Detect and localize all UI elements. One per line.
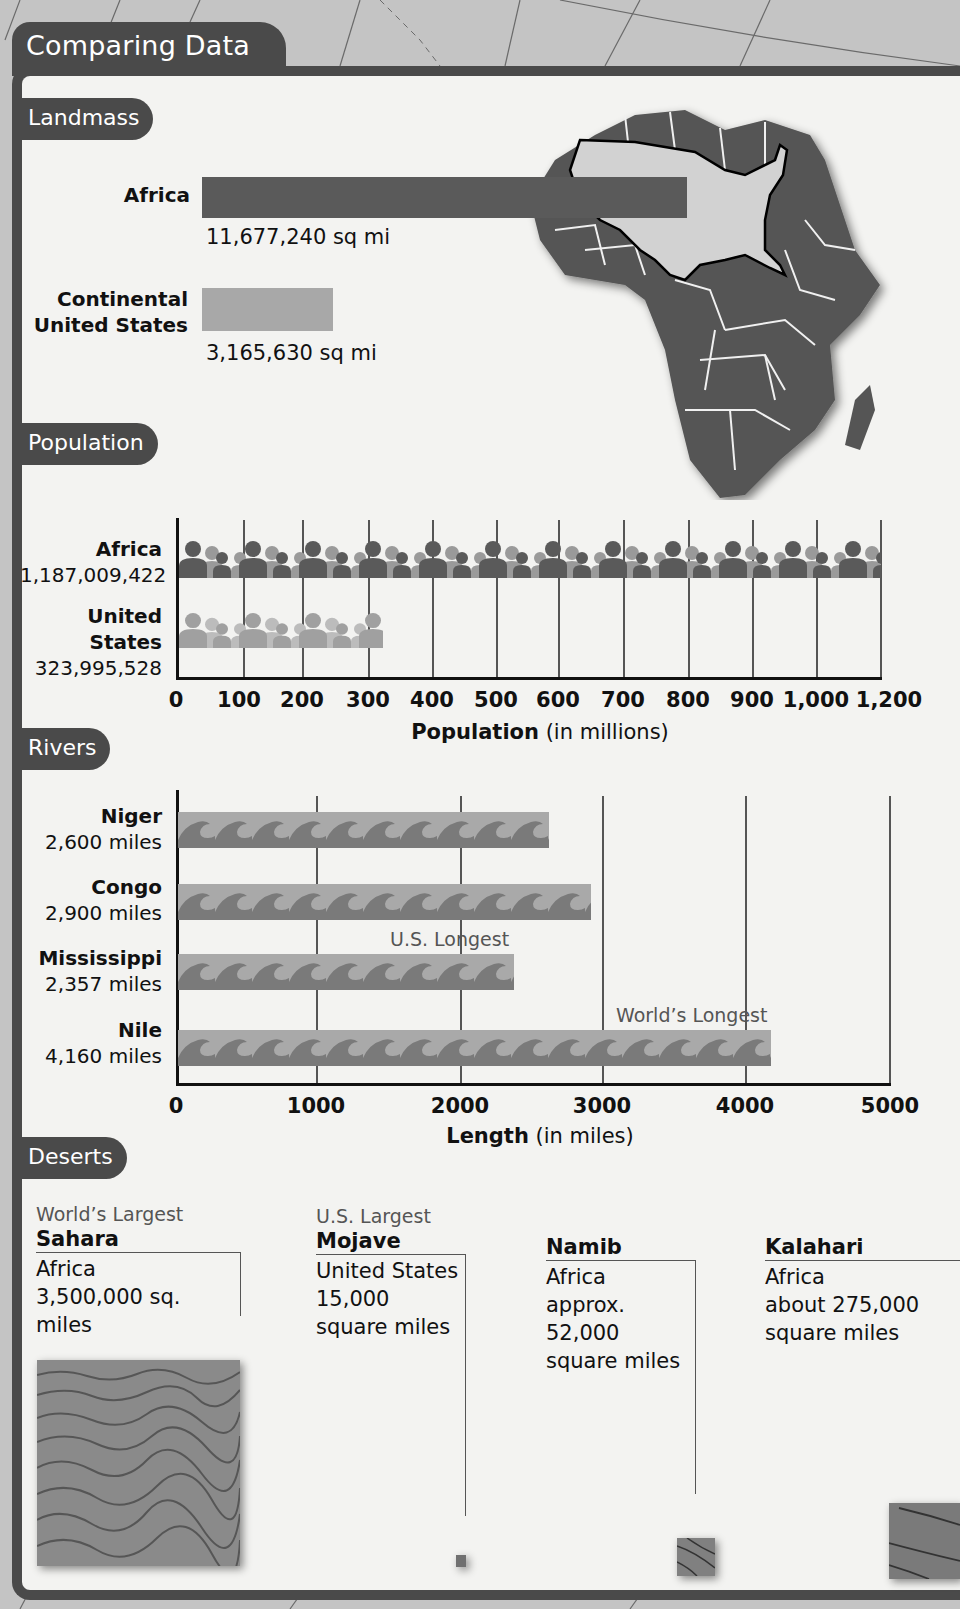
desert-line: Africa <box>765 1263 960 1291</box>
rivers-tick: 2000 <box>420 1094 500 1118</box>
desert-line: 15,000 <box>316 1285 465 1313</box>
desert-line: square miles <box>765 1319 960 1347</box>
desert-line: approx. <box>546 1291 695 1319</box>
mojave-sand-photo <box>456 1555 466 1567</box>
river-length-nile: 4,160 miles <box>20 1043 162 1069</box>
desert-line: square miles <box>316 1313 465 1341</box>
desert-line: 3,500,000 sq. miles <box>36 1283 240 1339</box>
africa-with-us-overlay-map-icon <box>525 100 905 500</box>
desert-line: United States <box>316 1257 465 1285</box>
kalahari-sand-photo <box>889 1503 960 1579</box>
africa-population-people-icons <box>179 540 881 578</box>
desert-line: square miles <box>546 1347 695 1375</box>
river-bar-congo <box>178 884 591 920</box>
desert-card-kalahari: Kalahari Africa about 275,000 square mil… <box>765 1234 960 1350</box>
river-length-mississippi: 2,357 miles <box>20 971 162 997</box>
rivers-x-axis <box>176 1083 891 1086</box>
rivers-axis-title-rest: (in miles) <box>529 1124 634 1148</box>
rivers-tick: 4000 <box>705 1094 785 1118</box>
desert-name: Sahara <box>36 1226 241 1252</box>
population-us-label-line1: United <box>40 603 162 629</box>
section-tab-rivers: Rivers <box>14 728 110 770</box>
desert-sub-label: U.S. Largest <box>316 1204 466 1228</box>
sahara-sand-photo <box>37 1360 240 1566</box>
desert-info-box: Africa 3,500,000 sq. miles <box>36 1252 241 1316</box>
landmass-us-value: 3,165,630 sq mi <box>206 340 377 367</box>
desert-card-sahara: World’s Largest Sahara Africa 3,500,000 … <box>36 1202 241 1316</box>
river-length-congo: 2,900 miles <box>20 900 162 926</box>
desert-name: Mojave <box>316 1228 466 1254</box>
rivers-tick: 1000 <box>276 1094 356 1118</box>
desert-card-namib: Namib Africa approx. 52,000 square miles <box>546 1234 696 1494</box>
rivers-tick: 0 <box>136 1094 216 1118</box>
annotation-us-longest: U.S. Longest <box>390 928 509 950</box>
river-name-niger: Niger <box>20 803 162 829</box>
population-africa-label: Africa <box>40 536 162 562</box>
river-bar-mississippi <box>178 954 514 990</box>
population-axis-title: Population (in millions) <box>380 720 700 744</box>
population-tick: 1,200 <box>844 688 934 712</box>
population-us-label-line2: States <box>40 629 162 655</box>
rivers-gridline <box>889 796 891 1084</box>
us-population-people-icons <box>179 612 383 648</box>
landmass-africa-label: Africa <box>60 182 190 208</box>
landmass-africa-bar <box>202 177 687 218</box>
population-axis-title-rest: (in millions) <box>539 720 669 744</box>
river-bar-nile <box>178 1030 771 1066</box>
rivers-axis-title: Length (in miles) <box>380 1124 700 1148</box>
landmass-us-label-line2: United States <box>20 312 188 338</box>
rivers-axis-title-bold: Length <box>446 1124 529 1148</box>
desert-line: 52,000 <box>546 1319 695 1347</box>
desert-name: Kalahari <box>765 1234 960 1260</box>
section-tab-population: Population <box>14 423 158 465</box>
landmass-us-label-line1: Continental <box>20 286 188 312</box>
landmass-us-bar <box>202 288 333 331</box>
desert-card-mojave: U.S. Largest Mojave United States 15,000… <box>316 1204 466 1516</box>
rivers-tick: 3000 <box>562 1094 642 1118</box>
population-x-axis <box>176 677 882 680</box>
river-name-mississippi: Mississippi <box>20 945 162 971</box>
desert-line: about 275,000 <box>765 1291 960 1319</box>
namib-sand-photo <box>677 1538 715 1576</box>
desert-sub-label: World’s Largest <box>36 1202 241 1226</box>
landmass-africa-value: 11,677,240 sq mi <box>206 224 390 251</box>
desert-line: Africa <box>36 1255 240 1283</box>
desert-line: Africa <box>546 1263 695 1291</box>
population-africa-value: 1,187,009,422 <box>20 562 162 588</box>
desert-info-box: Africa about 275,000 square miles <box>765 1260 960 1350</box>
river-name-congo: Congo <box>20 874 162 900</box>
river-length-niger: 2,600 miles <box>20 829 162 855</box>
river-name-nile: Nile <box>20 1017 162 1043</box>
population-axis-title-bold: Population <box>411 720 539 744</box>
rivers-tick: 5000 <box>850 1094 930 1118</box>
desert-info-box: United States 15,000 square miles <box>316 1254 466 1516</box>
annotation-world-longest: World’s Longest <box>616 1004 767 1026</box>
population-us-value: 323,995,528 <box>20 655 162 681</box>
desert-name: Namib <box>546 1234 696 1260</box>
section-tab-landmass: Landmass <box>14 98 153 140</box>
section-tab-deserts: Deserts <box>14 1137 127 1179</box>
desert-info-box: Africa approx. 52,000 square miles <box>546 1260 696 1494</box>
river-bar-niger <box>178 812 549 848</box>
page-title: Comparing Data <box>12 22 286 76</box>
